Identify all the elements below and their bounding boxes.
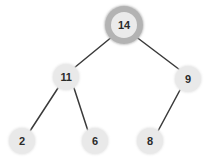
tree-node-9[interactable]: 9 [175, 66, 201, 92]
tree-node-9-label: 9 [185, 74, 191, 85]
tree-edge-11-2 [30, 88, 58, 131]
tree-node-14[interactable]: 14 [105, 6, 143, 44]
tree-node-2[interactable]: 2 [9, 128, 35, 154]
tree-node-6[interactable]: 6 [82, 128, 108, 154]
tree-node-6-label: 6 [92, 136, 98, 147]
binary-tree-diagram: 14 11 9 2 6 8 [0, 0, 209, 165]
tree-node-14-inner: 14 [111, 12, 137, 38]
tree-edge-14-9 [135, 36, 180, 70]
tree-edge-11-6 [74, 88, 88, 131]
tree-node-8[interactable]: 8 [137, 128, 163, 154]
tree-edge-9-8 [158, 90, 180, 131]
tree-node-11[interactable]: 11 [53, 64, 79, 90]
tree-node-8-label: 8 [147, 136, 153, 147]
tree-edge-14-11 [74, 36, 113, 68]
tree-node-11-label: 11 [60, 72, 71, 83]
tree-node-2-label: 2 [19, 136, 25, 147]
tree-node-14-label: 14 [118, 20, 130, 31]
